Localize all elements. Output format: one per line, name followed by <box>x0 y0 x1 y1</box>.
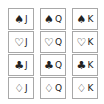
heart-icon: ♡ <box>44 37 54 48</box>
card-heart-q[interactable]: ♡Q <box>40 31 66 53</box>
club-icon: ♣ <box>44 60 54 71</box>
diamond-icon: ♢ <box>14 83 24 94</box>
heart-icon: ♡ <box>77 37 87 48</box>
card-diamond-j[interactable]: ♢J <box>8 77 34 99</box>
card-rank: K <box>87 84 93 93</box>
card-heart-k[interactable]: ♡K <box>72 31 98 53</box>
spade-icon: ♠ <box>77 14 87 25</box>
card-spade-q[interactable]: ♠Q <box>40 8 66 30</box>
card-rank: J <box>25 84 28 93</box>
heart-icon: ♡ <box>14 37 24 48</box>
diamond-icon: ♢ <box>77 83 87 94</box>
card-club-q[interactable]: ♣Q <box>40 54 66 76</box>
card-rank: K <box>87 61 93 70</box>
card-rank: Q <box>55 38 62 47</box>
card-rank: J <box>25 38 28 47</box>
card-rank: Q <box>55 84 62 93</box>
card-diamond-q[interactable]: ♢Q <box>40 77 66 99</box>
card-diamond-k[interactable]: ♢K <box>72 77 98 99</box>
club-icon: ♣ <box>77 60 87 71</box>
card-grid: ♠J ♠Q ♠K ♡J ♡Q ♡K ♣J ♣Q ♣K ♢J ♢Q ♢K <box>8 8 98 99</box>
card-heart-j[interactable]: ♡J <box>8 31 34 53</box>
card-rank: K <box>87 38 93 47</box>
spade-icon: ♠ <box>44 14 54 25</box>
diamond-icon: ♢ <box>44 83 54 94</box>
spade-icon: ♠ <box>14 14 24 25</box>
card-club-j[interactable]: ♣J <box>8 54 34 76</box>
card-rank: Q <box>55 61 62 70</box>
card-spade-j[interactable]: ♠J <box>8 8 34 30</box>
card-rank: Q <box>55 15 62 24</box>
club-icon: ♣ <box>14 60 24 71</box>
card-spade-k[interactable]: ♠K <box>72 8 98 30</box>
card-rank: J <box>25 15 28 24</box>
card-club-k[interactable]: ♣K <box>72 54 98 76</box>
card-rank: J <box>25 61 28 70</box>
card-rank: K <box>87 15 93 24</box>
